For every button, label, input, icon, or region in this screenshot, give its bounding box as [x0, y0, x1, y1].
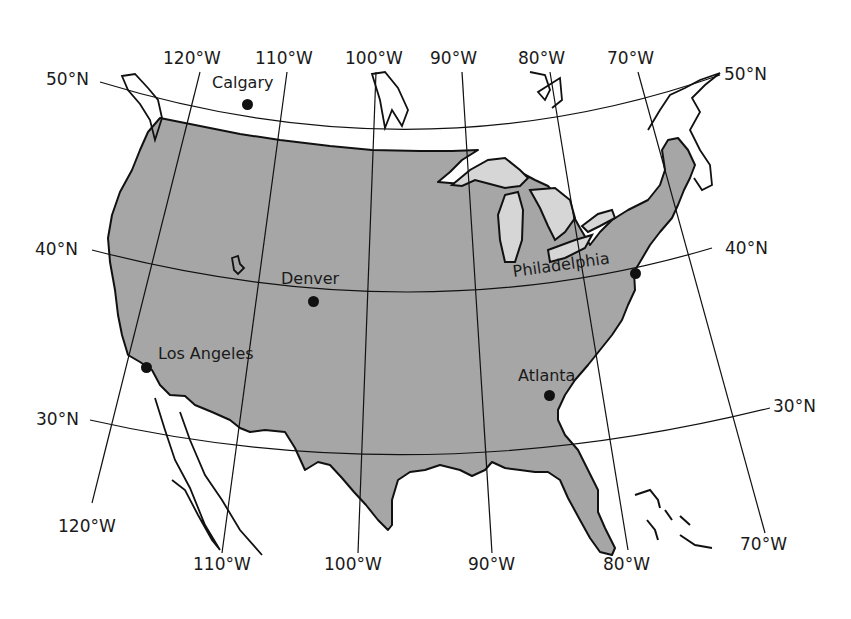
city-marker-atlanta	[544, 390, 555, 401]
label-30n-right: 30°N	[773, 398, 816, 415]
bahamas	[635, 490, 712, 548]
hudson-bay-islands	[372, 72, 408, 128]
label-110w-top: 110°W	[255, 50, 313, 67]
james-bay-coast	[530, 72, 562, 108]
city-marker-los-angeles	[141, 362, 152, 373]
label-90w-bottom: 90°W	[468, 556, 515, 573]
label-70w-top: 70°W	[607, 50, 654, 67]
label-40n-right: 40°N	[725, 240, 768, 257]
map-graphic	[0, 0, 851, 619]
label-100w-bottom: 100°W	[324, 556, 382, 573]
label-120w-top: 120°W	[163, 50, 221, 67]
label-50n-right: 50°N	[724, 66, 767, 83]
label-70w-bottom: 70°W	[740, 536, 787, 553]
meridian-70w	[638, 72, 765, 533]
label-90w-top: 90°W	[430, 50, 477, 67]
label-80w-bottom: 80°W	[603, 556, 650, 573]
lake-superior	[452, 158, 528, 188]
label-30n-left: 30°N	[36, 411, 79, 428]
city-label-atlanta: Atlanta	[518, 368, 575, 384]
label-40n-left: 40°N	[35, 241, 78, 258]
label-120w-bottom: 120°W	[58, 518, 116, 535]
city-label-calgary: Calgary	[212, 75, 273, 91]
lake-michigan	[498, 192, 523, 262]
city-marker-philadelphia	[630, 268, 641, 279]
city-label-los-angeles: Los Angeles	[158, 346, 254, 362]
city-label-denver: Denver	[281, 271, 339, 287]
city-marker-denver	[308, 296, 319, 307]
label-100w-top: 100°W	[345, 50, 403, 67]
label-50n-left: 50°N	[46, 71, 89, 88]
us-map: 50°N 50°N 40°N 40°N 30°N 30°N 120°W 110°…	[0, 0, 851, 619]
label-110w-bottom: 110°W	[193, 556, 251, 573]
us-landmass	[108, 118, 695, 555]
label-80w-top: 80°W	[518, 50, 565, 67]
city-marker-calgary	[242, 99, 253, 110]
